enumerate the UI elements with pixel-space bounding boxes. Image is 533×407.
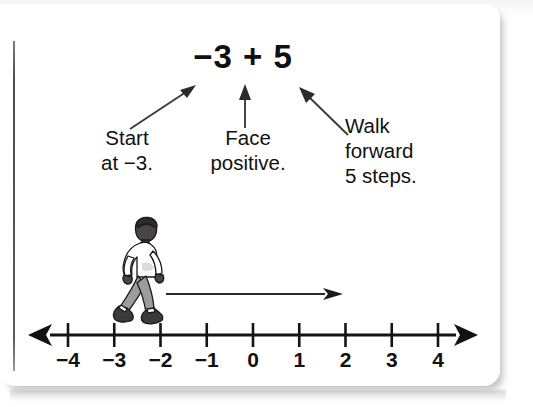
number-line-left-arrowhead bbox=[28, 324, 52, 346]
callout-start: Start at −3. bbox=[78, 125, 176, 175]
callout-start-arrow-head bbox=[180, 85, 196, 98]
callout-walk-line-2: forward bbox=[345, 138, 475, 163]
callout-face-line-2: positive. bbox=[196, 150, 300, 175]
forward-motion-arrow bbox=[165, 286, 345, 302]
callout-start-line-2: at −3. bbox=[78, 150, 176, 175]
callout-walk-arrow-head bbox=[299, 87, 315, 103]
motion-arrow-head bbox=[323, 288, 343, 300]
callout-start-arrow-shaft bbox=[130, 92, 186, 129]
callout-face-line-1: Face bbox=[196, 125, 300, 150]
callout-face-arrow bbox=[239, 84, 251, 128]
hand-front bbox=[155, 274, 164, 283]
left-vertical-rule bbox=[13, 41, 15, 371]
hand-back bbox=[123, 275, 132, 284]
number-line-tick-label--1: −1 bbox=[187, 348, 227, 372]
number-line-tick-labels: −4−3−2−101234 bbox=[28, 348, 478, 376]
callout-walk: Walk forward 5 steps. bbox=[345, 113, 475, 188]
illustration-page: −3 + 5 Start at −3. Face positive. Walk … bbox=[0, 0, 533, 407]
callout-face-arrow-head bbox=[239, 84, 251, 100]
number-line-tick-label-4: 4 bbox=[418, 348, 458, 372]
callout-start-arrow bbox=[130, 85, 196, 129]
callout-start-line-1: Start bbox=[78, 125, 176, 150]
number-line-tick-label-2: 2 bbox=[326, 348, 366, 372]
callout-walk-line-3: 5 steps. bbox=[345, 163, 475, 188]
number-line-tick-label-3: 3 bbox=[372, 348, 412, 372]
number-line-tick-label-1: 1 bbox=[279, 348, 319, 372]
callout-walk-line-1: Walk bbox=[345, 113, 475, 138]
illustration-card: −3 + 5 Start at −3. Face positive. Walk … bbox=[0, 4, 500, 386]
number-line-tick-label-0: 0 bbox=[233, 348, 273, 372]
equation-expression: −3 + 5 bbox=[148, 38, 338, 76]
number-line-tick-label--2: −2 bbox=[141, 348, 181, 372]
card-drop-shadow bbox=[10, 390, 506, 402]
number-line-tick-label--3: −3 bbox=[94, 348, 134, 372]
callout-face: Face positive. bbox=[196, 125, 300, 175]
callout-walk-arrow bbox=[299, 87, 348, 135]
number-line-right-arrowhead bbox=[454, 324, 478, 346]
number-line-tick-label--4: −4 bbox=[48, 348, 88, 372]
sock-front bbox=[147, 308, 155, 313]
callout-walk-arrow-shaft bbox=[308, 96, 348, 135]
